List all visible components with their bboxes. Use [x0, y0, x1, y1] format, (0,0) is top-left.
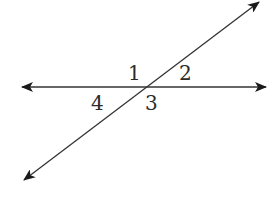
- angle-label-1: 1: [128, 61, 141, 85]
- angle-label-4: 4: [91, 91, 104, 115]
- intersecting-lines-diagram: 1 2 3 4: [0, 0, 275, 198]
- angle-label-3: 3: [145, 91, 158, 115]
- transversal-line: [24, 2, 259, 180]
- angle-label-2: 2: [179, 61, 192, 85]
